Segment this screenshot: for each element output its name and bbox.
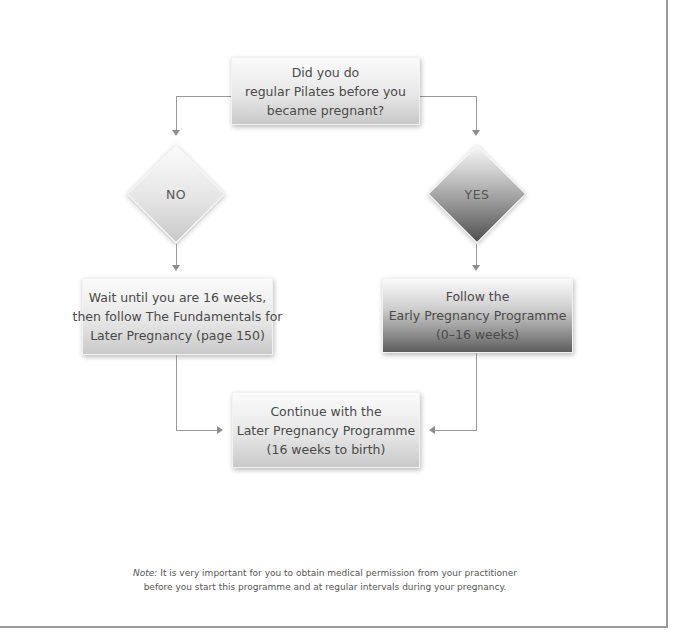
final-line-1: Continue with the [270,402,381,421]
connector-yes-outcome-to-final-vertical [476,353,477,430]
connector-question-to-no [176,96,232,97]
arrow-left-icon [429,426,435,434]
note-line-2: before you start this programme and at r… [100,580,550,594]
question-box: Did you do regular Pilates before you be… [231,57,420,125]
yes-decision-diamond: YES [427,144,527,244]
final-line-3: (16 weeks to birth) [267,440,386,459]
frame-bottom-border [0,626,668,628]
arrow-down-icon [472,265,480,271]
question-line-3: became pregnant? [267,101,384,120]
arrow-down-icon [472,130,480,136]
medical-note: Note: It is very important for you to ob… [100,566,550,594]
no-label: NO [126,144,226,244]
note-prefix: Note: [133,568,157,578]
question-line-1: Did you do [292,63,360,82]
frame-right-border [666,0,668,628]
arrow-down-icon [172,265,180,271]
final-step-box: Continue with the Later Pregnancy Progra… [232,392,420,468]
arrow-down-icon [172,130,180,136]
yes-outcome-line-2: Early Pregnancy Programme [389,306,567,325]
note-line-1: Note: It is very important for you to ob… [100,566,550,580]
no-outcome-line-2: then follow The Fundamentals for [73,307,283,326]
no-decision-diamond: NO [126,144,226,244]
yes-outcome-line-1: Follow the [446,287,510,306]
connector-question-to-no-vertical [176,96,177,131]
connector-yes-to-outcome [476,244,477,267]
no-outcome-line-3: Later Pregnancy (page 150) [90,326,265,345]
connector-question-to-yes-vertical [476,96,477,131]
connector-question-to-yes [420,96,477,97]
note-text-1: It is very important for you to obtain m… [157,568,517,578]
connector-no-to-outcome [176,244,177,267]
yes-outcome-box: Follow the Early Pregnancy Programme (0–… [382,278,573,353]
final-line-2: Later Pregnancy Programme [237,421,416,440]
arrow-right-icon [217,426,223,434]
no-outcome-line-1: Wait until you are 16 weeks, [89,288,267,307]
yes-label: YES [427,144,527,244]
connector-yes-outcome-to-final [435,430,477,431]
yes-outcome-line-3: (0–16 weeks) [436,325,519,344]
question-line-2: regular Pilates before you [245,82,406,101]
connector-no-outcome-to-final [176,430,218,431]
no-outcome-box: Wait until you are 16 weeks, then follow… [82,278,273,355]
connector-no-outcome-to-final-vertical [176,355,177,430]
